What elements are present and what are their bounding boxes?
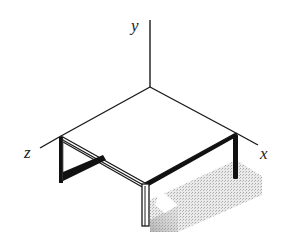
right-leg xyxy=(233,134,238,179)
z-axis xyxy=(40,136,61,148)
z-axis-label: z xyxy=(24,144,31,161)
table-diagram xyxy=(0,0,284,241)
x-axis xyxy=(236,133,258,145)
front-leg xyxy=(142,184,149,226)
y-axis-label: y xyxy=(131,17,139,34)
x-axis-label: x xyxy=(260,145,268,162)
